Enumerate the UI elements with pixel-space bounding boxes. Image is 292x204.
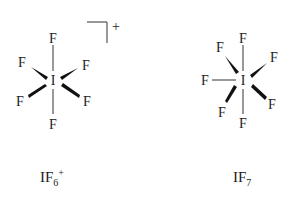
fluorine-left: F (201, 73, 209, 88)
fluorine-lower-right: F (83, 94, 91, 109)
formula-subscript: 6 (53, 177, 58, 188)
fluorine-bottom: F (239, 116, 247, 131)
if6-cation-structure: I F F F F F F + (16, 19, 120, 132)
fluorine-top: F (239, 31, 247, 46)
central-atom-iodine: I (241, 73, 246, 88)
fluorine-lower-left: F (16, 94, 24, 109)
charge-plus-sign: + (112, 19, 120, 34)
wedge-bond-lower-left (28, 84, 47, 98)
formula-main: IF (40, 169, 53, 185)
wedge-bond-lower-right (251, 84, 267, 100)
fluorine-lower-right: F (268, 97, 276, 112)
formula-label-if7: IF7 (233, 169, 251, 188)
formula-main: IF (233, 169, 246, 185)
formula-subscript: 7 (246, 177, 251, 188)
fluorine-upper-left: F (216, 40, 224, 55)
fluorine-upper-right: F (82, 58, 90, 73)
if7-structure: I F F F F F F F (201, 31, 278, 131)
formula-superscript: + (58, 167, 64, 178)
wedge-bond-upper-right (60, 68, 78, 80)
charge-bracket (87, 22, 107, 43)
wedge-bond-upper-right (250, 63, 267, 78)
formula-label-if6-cation: IF6+ (40, 167, 64, 188)
fluorine-upper-left: F (18, 55, 26, 70)
wedge-bond-upper-left (225, 56, 239, 74)
fluorine-lower-left: F (218, 105, 226, 120)
wedge-bond-lower-left (225, 85, 237, 103)
fluorine-upper-right: F (270, 50, 278, 65)
fluorine-bottom: F (49, 117, 57, 132)
molecular-structures-diagram: I F F F F F F + I F F F F F F F IF6+ IF7 (0, 0, 292, 204)
wedge-bond-lower-right (61, 83, 80, 98)
fluorine-top: F (49, 31, 57, 46)
central-atom-iodine: I (51, 73, 56, 88)
wedge-bond-upper-left (31, 67, 48, 80)
